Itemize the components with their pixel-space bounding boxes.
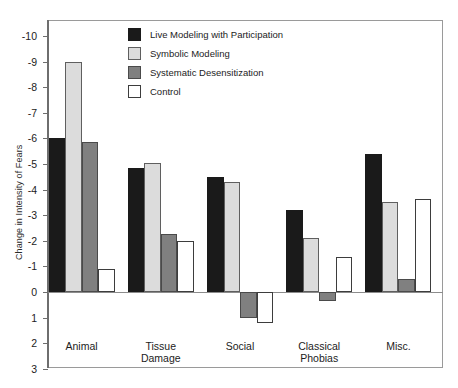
y-tick-label: -7 bbox=[9, 108, 37, 119]
y-tick-label: 3 bbox=[9, 364, 37, 375]
y-tick-label: -4 bbox=[9, 185, 37, 196]
y-tick-mark bbox=[43, 113, 48, 114]
bar bbox=[82, 142, 99, 292]
y-tick-label: -6 bbox=[9, 133, 37, 144]
legend-swatch-icon bbox=[128, 47, 141, 60]
x-category-label-line: Misc. bbox=[353, 340, 443, 352]
y-tick-mark bbox=[43, 241, 48, 242]
x-category-label-line: Social bbox=[195, 340, 285, 352]
y-tick-label: -10 bbox=[9, 31, 37, 42]
bar bbox=[98, 269, 115, 292]
legend-item: Systematic Desensitization bbox=[128, 64, 264, 80]
bar bbox=[382, 202, 399, 292]
x-category-label: Animal bbox=[37, 340, 127, 352]
bar bbox=[398, 279, 415, 292]
x-category-label-line: Tissue bbox=[116, 340, 206, 352]
x-category-label: Social bbox=[195, 340, 285, 352]
y-tick-mark bbox=[43, 87, 48, 88]
y-tick-label: 1 bbox=[9, 313, 37, 324]
legend-item: Control bbox=[128, 83, 181, 99]
bar bbox=[65, 62, 82, 292]
y-tick-mark bbox=[43, 62, 48, 63]
x-category-label: TissueDamage bbox=[116, 340, 206, 364]
y-tick-mark bbox=[43, 292, 48, 293]
x-category-label: ClassicalPhobias bbox=[274, 340, 364, 364]
legend-label: Control bbox=[150, 86, 181, 97]
bar bbox=[161, 234, 178, 292]
bar bbox=[319, 292, 336, 301]
bar bbox=[365, 154, 382, 292]
x-category-label-line: Classical bbox=[274, 340, 364, 352]
y-tick-mark bbox=[43, 190, 48, 191]
bar bbox=[224, 182, 241, 292]
legend-swatch-icon bbox=[128, 66, 141, 79]
bar bbox=[286, 210, 303, 292]
y-tick-mark bbox=[43, 164, 48, 165]
bar bbox=[207, 177, 224, 292]
y-tick-label: 2 bbox=[9, 338, 37, 349]
bar bbox=[128, 168, 145, 292]
legend-swatch-icon bbox=[128, 85, 141, 98]
bar bbox=[144, 163, 161, 292]
y-tick-label: -8 bbox=[9, 82, 37, 93]
y-tick-label: -1 bbox=[9, 261, 37, 272]
y-tick-mark bbox=[43, 369, 48, 370]
bar bbox=[257, 292, 274, 323]
y-tick-label: -5 bbox=[9, 159, 37, 170]
x-category-label: Misc. bbox=[353, 340, 443, 352]
bar bbox=[240, 292, 257, 318]
y-tick-mark bbox=[43, 266, 48, 267]
bar bbox=[177, 241, 194, 292]
bar-chart: Change in Intensity of Fears -10-9-8-7-6… bbox=[0, 0, 458, 388]
legend: Live Modeling with ParticipationSymbolic… bbox=[128, 26, 378, 104]
legend-label: Live Modeling with Participation bbox=[150, 29, 283, 40]
y-tick-mark bbox=[43, 215, 48, 216]
y-tick-mark bbox=[43, 318, 48, 319]
bar bbox=[49, 138, 66, 292]
x-category-label-line: Phobias bbox=[274, 352, 364, 364]
legend-swatch-icon bbox=[128, 28, 141, 41]
y-tick-label: -9 bbox=[9, 57, 37, 68]
bar bbox=[336, 257, 353, 292]
legend-item: Live Modeling with Participation bbox=[128, 26, 283, 42]
legend-label: Systematic Desensitization bbox=[150, 67, 264, 78]
y-tick-label: -3 bbox=[9, 210, 37, 221]
legend-item: Symbolic Modeling bbox=[128, 45, 230, 61]
y-tick-mark bbox=[43, 138, 48, 139]
bar bbox=[415, 199, 432, 292]
y-tick-label: -2 bbox=[9, 236, 37, 247]
bar bbox=[303, 238, 320, 292]
x-category-label-line: Animal bbox=[37, 340, 127, 352]
y-tick-mark bbox=[43, 36, 48, 37]
legend-label: Symbolic Modeling bbox=[150, 48, 230, 59]
x-category-label-line: Damage bbox=[116, 352, 206, 364]
y-tick-label: 0 bbox=[9, 287, 37, 298]
